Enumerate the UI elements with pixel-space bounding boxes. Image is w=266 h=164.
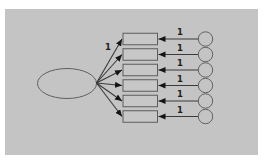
figure-canvas: 1 1 1 1 1 1 1 bbox=[0, 0, 266, 164]
error-path-label-2: 1 bbox=[177, 43, 183, 53]
indicator-rect-1 bbox=[123, 33, 158, 45]
indicator-rect-3 bbox=[123, 64, 158, 76]
error-path-label-6: 1 bbox=[177, 105, 183, 115]
error-path-label-1: 1 bbox=[177, 27, 183, 37]
indicator-rect-2 bbox=[123, 49, 158, 61]
indicator-rect-5 bbox=[123, 95, 158, 107]
factor-loading-label: 1 bbox=[105, 42, 111, 52]
error-path-label-5: 1 bbox=[177, 89, 183, 99]
error-path-label-3: 1 bbox=[177, 58, 183, 68]
indicator-rect-6 bbox=[123, 111, 158, 123]
error-path-label-4: 1 bbox=[177, 74, 183, 84]
path-diagram-svg: 1 1 1 1 1 1 1 bbox=[0, 0, 266, 164]
indicator-rect-4 bbox=[123, 80, 158, 92]
